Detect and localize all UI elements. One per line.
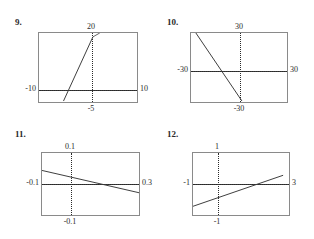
problem-11-plot: [41, 152, 140, 216]
problem-10-line: [191, 33, 287, 102]
problem-11-line: [42, 153, 139, 215]
problem-12-left-label: -1: [183, 179, 190, 187]
problem-11-top-label: 0.1: [65, 143, 75, 151]
problem-12-right-label: 3: [292, 179, 296, 187]
problem-10-top-label: 30: [235, 23, 243, 31]
problem-9-line: [39, 33, 137, 102]
problem-12-plot: [192, 152, 290, 216]
problem-12-top-label: 1: [215, 143, 219, 151]
problem-12-bottom-label: -1: [214, 218, 221, 226]
problem-11-left-label: -0.1: [26, 179, 39, 187]
problem-11-number: 11.: [15, 130, 26, 139]
problem-10-bottom-label: -30: [234, 105, 245, 113]
problem-11-right-label: 0.3: [142, 179, 152, 187]
problem-9-plot: [38, 32, 138, 103]
problem-12-number: 12.: [167, 130, 178, 139]
problem-9-bottom-label: -5: [88, 105, 95, 113]
problem-10-left-label: -30: [177, 66, 188, 74]
problem-11-bottom-label: -0.1: [64, 218, 77, 226]
problem-9-top-label: 20: [87, 23, 95, 31]
problem-9-right-label: 10: [140, 85, 148, 93]
problem-12-line: [193, 153, 289, 215]
problem-10-right-label: 30: [290, 66, 298, 74]
problem-10-number: 10.: [167, 18, 178, 27]
problem-9-left-label: -10: [25, 85, 36, 93]
problem-10-plot: [190, 32, 288, 103]
problem-9-number: 9.: [15, 18, 22, 27]
worksheet-page: 9. 20 -5 -10 10 10. 30 -30 -30 30: [0, 0, 314, 239]
